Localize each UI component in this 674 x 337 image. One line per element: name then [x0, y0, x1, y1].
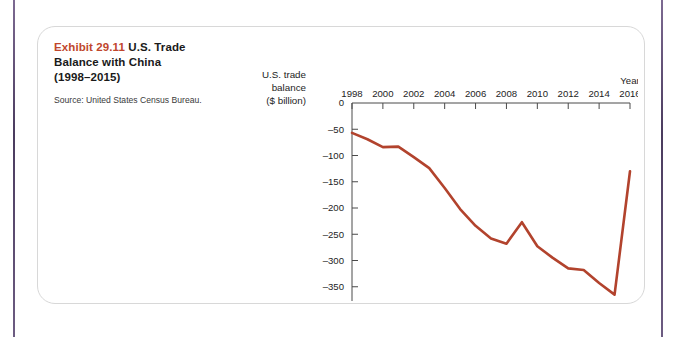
- y-axis-title-line3: ($ billion): [266, 95, 306, 108]
- page-gutter-rule-left: [13, 0, 15, 337]
- trade-balance-series-line: [352, 133, 630, 295]
- caption-title-line2: Balance with China: [54, 56, 161, 68]
- x-axis-title: Year: [620, 75, 638, 86]
- y-axis-title-line1: U.S. trade: [262, 69, 306, 82]
- x-axis-tick-label: 2010: [527, 88, 548, 99]
- x-axis-tick-label: 2012: [558, 88, 579, 99]
- x-axis-tick-label: 2000: [372, 88, 393, 99]
- x-axis-tick-label: 2014: [588, 88, 610, 99]
- x-axis-tick-label: 2006: [465, 88, 486, 99]
- x-axis-tick-label: 2016: [619, 88, 638, 99]
- caption-title-line1: U.S. Trade: [128, 41, 185, 53]
- exhibit-number-label: Exhibit 29.11: [54, 41, 125, 53]
- exhibit-caption: Exhibit 29.11 U.S. Trade Balance with Ch…: [54, 40, 234, 106]
- caption-title-line3: (1998–2015): [54, 71, 120, 83]
- exhibit-card: Exhibit 29.11 U.S. Trade Balance with Ch…: [37, 26, 645, 304]
- x-axis-tick-label: 2004: [434, 88, 456, 99]
- y-axis-tick-label: –50: [328, 124, 344, 135]
- x-axis-tick-label: 2008: [496, 88, 517, 99]
- y-axis-tick-label: 0: [339, 97, 344, 108]
- y-axis-tick-label: –200: [323, 202, 344, 213]
- caption-title: Exhibit 29.11 U.S. Trade Balance with Ch…: [54, 40, 234, 86]
- y-axis-title-line2: balance: [272, 82, 306, 95]
- page-gutter-rule-right: [661, 0, 663, 337]
- y-axis-tick-label: –100: [323, 150, 344, 161]
- y-axis-tick-label: –150: [323, 176, 344, 187]
- caption-source: Source: United States Census Bureau.: [54, 95, 234, 106]
- screenshot-root: Exhibit 29.11 U.S. Trade Balance with Ch…: [0, 0, 674, 337]
- y-axis-tick-label: –300: [323, 255, 344, 266]
- y-axis-tick-label: –350: [323, 281, 344, 292]
- x-axis-tick-label: 1998: [341, 88, 362, 99]
- y-axis-tick-label: –250: [323, 229, 344, 240]
- x-axis-tick-label: 2002: [403, 88, 424, 99]
- chart-plot-area: U.S. trade balance ($ billion) 199820002…: [228, 33, 638, 301]
